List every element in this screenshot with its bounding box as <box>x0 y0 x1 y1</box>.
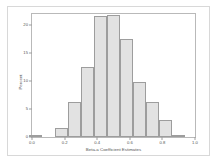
x-axis-tick-label: 0.8 <box>159 137 165 145</box>
histogram-bar <box>159 120 172 137</box>
histogram-bar <box>107 15 120 137</box>
histogram-bar <box>55 128 68 137</box>
histogram-bars <box>32 14 195 137</box>
plot-area: 051015200.00.20.40.60.81.0 <box>31 13 196 138</box>
histogram-bar <box>94 16 107 137</box>
x-axis-tick-label: 0.4 <box>94 137 100 145</box>
histogram-bar <box>133 82 146 137</box>
x-axis-tick-label: 0.6 <box>127 137 133 145</box>
y-axis-tick-label: 5 <box>26 107 32 111</box>
histogram-bar <box>81 67 94 137</box>
y-axis-tick-label: 20 <box>23 23 32 27</box>
x-axis-tick-label: 1.0 <box>192 137 198 145</box>
y-axis-tick-label: 15 <box>23 51 32 55</box>
y-axis-tick-label: 10 <box>23 79 32 83</box>
histogram-bar <box>146 102 159 137</box>
x-axis-tick-label: 0.0 <box>29 137 35 145</box>
histogram-bar <box>120 39 133 137</box>
histogram-figure: Percent Beta-a Coefficient Estimates 051… <box>0 0 217 164</box>
histogram-bar <box>172 135 185 137</box>
x-axis-title: Beta-a Coefficient Estimates <box>31 148 196 152</box>
x-axis-tick-label: 0.2 <box>62 137 68 145</box>
histogram-bar <box>68 102 81 137</box>
